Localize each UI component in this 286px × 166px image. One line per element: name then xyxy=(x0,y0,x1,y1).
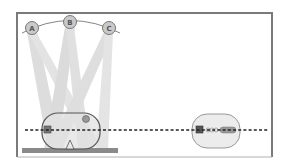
source-c: C xyxy=(103,22,116,35)
source-b: B xyxy=(64,16,77,29)
source-b-label: B xyxy=(67,19,72,27)
right-capsule xyxy=(192,114,240,148)
source-a-label: A xyxy=(29,25,35,33)
source-a: A xyxy=(26,22,39,35)
source-c-label: C xyxy=(106,25,111,33)
diagram-canvas: A B C xyxy=(0,0,286,166)
left-capsule-circle xyxy=(83,116,90,123)
left-capsule xyxy=(42,113,100,149)
